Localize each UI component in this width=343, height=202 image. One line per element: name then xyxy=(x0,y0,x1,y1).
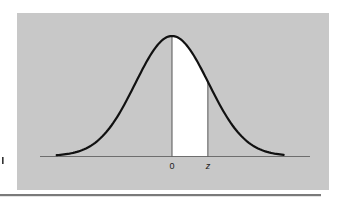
tick-label-zero: 0 xyxy=(169,161,174,171)
bottom-rule xyxy=(0,194,321,196)
normal-distribution-figure: 0 z xyxy=(0,0,343,202)
side-mark xyxy=(2,157,4,164)
tick-label-z: z xyxy=(205,161,211,171)
chart-svg: 0 z xyxy=(0,0,343,202)
